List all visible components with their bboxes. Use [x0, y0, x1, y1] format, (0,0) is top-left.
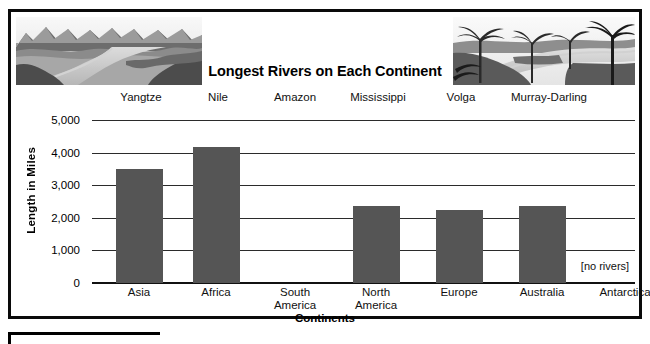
river-label-volga: Volga: [447, 91, 476, 103]
bar-europe[interactable]: [436, 210, 483, 283]
gridline-3000: [92, 185, 635, 186]
gridline-5000: [92, 120, 635, 121]
bar-australia[interactable]: [519, 206, 566, 283]
x-axis-categories: Asia Africa South America North America …: [92, 286, 558, 314]
chart-title: Longest Rivers on Each Continent: [11, 63, 639, 79]
river-label-yangtze: Yangtze: [120, 91, 161, 103]
river-label-murray-darling: Murray-Darling: [511, 91, 587, 103]
bottom-cutoff-bar: [8, 332, 160, 344]
y-axis-ticks: 5,000 4,000 3,000 2,000 1,000 0: [28, 120, 86, 283]
chart-page: Longest Rivers on Each Continent Yangtze…: [0, 0, 650, 344]
y-tick-1000: 1,000: [51, 244, 80, 256]
category-label-europe: Europe: [440, 286, 477, 299]
gridline-4000: [92, 153, 635, 154]
y-tick-3000: 3,000: [51, 179, 80, 191]
x-axis-title: Continents: [92, 312, 558, 324]
river-label-nile: Nile: [208, 91, 228, 103]
y-tick-4000: 4,000: [51, 147, 80, 159]
plot-area: 5,000 4,000 3,000 2,000 1,000 0 [no rive…: [92, 120, 558, 283]
y-tick-5000: 5,000: [51, 114, 80, 126]
bar-north-america[interactable]: [353, 206, 400, 283]
annotation-no-rivers: [no rivers]: [581, 260, 629, 272]
category-label-antarctica: Antarctica: [599, 286, 650, 299]
y-tick-0: 0: [74, 277, 80, 289]
category-label-africa: Africa: [201, 286, 230, 299]
river-label-mississippi: Mississippi: [350, 91, 406, 103]
category-label-australia: Australia: [520, 286, 565, 299]
river-labels-row: Yangtze Nile Amazon Mississippi Volga Mu…: [83, 91, 635, 107]
y-tick-2000: 2,000: [51, 212, 80, 224]
bar-asia[interactable]: [116, 169, 163, 283]
category-label-north-america: North America: [355, 286, 397, 311]
category-label-asia: Asia: [128, 286, 150, 299]
category-label-south-america: South America: [274, 286, 316, 311]
river-label-amazon: Amazon: [274, 91, 316, 103]
chart-frame: Longest Rivers on Each Continent Yangtze…: [8, 9, 642, 319]
bar-africa[interactable]: [193, 147, 240, 283]
